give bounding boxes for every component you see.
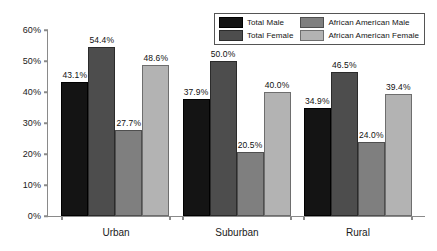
bar[interactable] (88, 47, 115, 216)
legend-item-total-male: Total Male (219, 17, 294, 28)
bar[interactable] (385, 94, 412, 216)
bar-slot: 20.5% (237, 30, 264, 216)
group-spacer (48, 30, 61, 216)
group-spacer (169, 30, 182, 216)
x-axis-tick-mark (182, 216, 184, 220)
bar[interactable] (142, 65, 169, 216)
bar[interactable] (304, 108, 331, 216)
legend-swatch-total-male (219, 17, 243, 28)
bar-slot: 48.6% (142, 30, 169, 216)
bar-slot: 46.5% (331, 30, 358, 216)
x-axis-tick-mark (411, 216, 413, 220)
bar-slot: 37.9% (183, 30, 210, 216)
x-axis-tick-mark (303, 216, 305, 220)
bar-slot: 54.4% (88, 30, 115, 216)
bar[interactable] (331, 72, 358, 216)
legend-item-african-american-male: African American Male (300, 17, 420, 28)
bar[interactable] (358, 142, 385, 216)
bar-slot: 39.4% (385, 30, 412, 216)
bar-value-label: 46.5% (332, 60, 357, 70)
group-spacer (412, 30, 425, 216)
bar-slot: 43.1% (61, 30, 88, 216)
bar-value-label: 34.9% (305, 96, 330, 106)
bar-slot: 27.7% (115, 30, 142, 216)
bar-chart: Total Male African American Male Total F… (0, 0, 437, 251)
bar[interactable] (210, 61, 237, 216)
legend-label-african-american-male: African American Male (328, 18, 409, 27)
bar-value-label: 37.9% (184, 87, 209, 97)
bar-slot: 24.0% (358, 30, 385, 216)
x-axis-category-label: Suburban (215, 227, 258, 238)
x-axis-tick-mark (169, 216, 171, 220)
x-axis-category-label: Urban (102, 227, 129, 238)
bar-slot: 40.0% (264, 30, 291, 216)
bar-value-label: 50.0% (211, 49, 236, 59)
bar-value-label: 20.5% (238, 140, 263, 150)
bar-group-rural: 34.9%46.5%24.0%39.4% (304, 30, 412, 216)
bar[interactable] (264, 92, 291, 216)
bar-value-label: 48.6% (143, 53, 168, 63)
bar-value-label: 43.1% (62, 70, 87, 80)
bar-slot: 50.0% (210, 30, 237, 216)
legend-label-total-male: Total Male (247, 18, 284, 27)
x-axis-category-label: Rural (346, 227, 370, 238)
bar-groups: 43.1%54.4%27.7%48.6%37.9%50.0%20.5%40.0%… (48, 30, 425, 216)
group-spacer (291, 30, 304, 216)
bar[interactable] (61, 82, 88, 216)
bar-group-suburban: 37.9%50.0%20.5%40.0% (183, 30, 291, 216)
bar-value-label: 40.0% (265, 80, 290, 90)
bar-value-label: 24.0% (359, 130, 384, 140)
x-axis-tick-mark (290, 216, 292, 220)
x-axis-tick-mark (61, 216, 63, 220)
bar[interactable] (183, 99, 210, 216)
bar[interactable] (115, 130, 142, 216)
bar[interactable] (237, 152, 264, 216)
bar-slot: 34.9% (304, 30, 331, 216)
bar-group-urban: 43.1%54.4%27.7%48.6% (61, 30, 169, 216)
plot-area: 0%10%20%30%40%50%60% 43.1%54.4%27.7%48.6… (47, 30, 425, 217)
bar-value-label: 39.4% (386, 82, 411, 92)
bar-value-label: 54.4% (89, 35, 114, 45)
bar-value-label: 27.7% (116, 118, 141, 128)
legend-swatch-african-american-male (300, 17, 324, 28)
